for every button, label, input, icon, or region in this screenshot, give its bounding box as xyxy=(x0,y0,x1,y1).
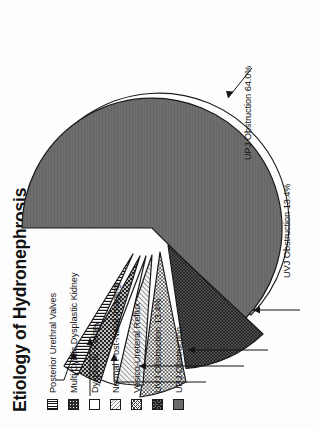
chart-canvas: Etiology of Hydronephrosis xyxy=(0,0,318,428)
legend-item-posterior-urethral-valves[interactable]: Posterior Urethral Valves xyxy=(44,273,61,410)
legend-item-normal-post-natal-imaging[interactable]: Normal Post-Natal Imaging xyxy=(107,273,124,410)
callout-upj-obstruction: UPJ Obstruction 64.0% xyxy=(243,65,253,160)
legend-swatch-uvj-obstruction xyxy=(152,399,163,410)
chart-legend: Posterior Urethral Valves Multi Cystic D… xyxy=(44,273,191,410)
legend-item-dysplastic-kidney[interactable]: Dysplastic Kidney xyxy=(86,273,103,410)
legend-swatch-upj-obstruction xyxy=(173,399,184,410)
legend-swatch-posterior-urethral-valves xyxy=(47,399,58,410)
legend-item-upj-obstruction[interactable]: UPJ Obstruction xyxy=(170,273,187,410)
pie-chart-figure: Etiology of Hydronephrosis xyxy=(0,0,318,428)
legend-label-uvj-obstruction: UVJ Obstruction 13.4% xyxy=(153,298,163,393)
legend-item-uvj-obstruction[interactable]: UVJ Obstruction 13.4% xyxy=(149,273,166,410)
arrow-upj xyxy=(226,91,234,98)
legend-swatch-normal-post-natal-imaging xyxy=(110,399,121,410)
legend-item-vesico-ureteral-reflux[interactable]: Vesico-Ureteral Reflux xyxy=(128,273,145,410)
legend-label-multi-cystic-dysplastic-kidney: Multi Cystic Dysplastic Kidney xyxy=(69,273,79,393)
callout-uvj-obstruction: UVJ Obstruction 13.4% xyxy=(282,183,292,278)
legend-label-posterior-urethral-valves: Posterior Urethral Valves xyxy=(48,293,58,393)
legend-item-multi-cystic-dysplastic-kidney[interactable]: Multi Cystic Dysplastic Kidney xyxy=(65,273,82,410)
legend-swatch-dysplastic-kidney xyxy=(89,399,100,410)
legend-label-vesico-ureteral-reflux: Vesico-Ureteral Reflux xyxy=(132,303,142,393)
legend-label-upj-obstruction: UPJ Obstruction xyxy=(174,327,184,393)
legend-label-normal-post-natal-imaging: Normal Post-Natal Imaging xyxy=(111,284,121,393)
legend-swatch-multi-cystic-dysplastic-kidney xyxy=(68,399,79,410)
legend-label-dysplastic-kidney: Dysplastic Kidney xyxy=(90,321,100,393)
legend-swatch-vesico-ureteral-reflux xyxy=(131,399,142,410)
